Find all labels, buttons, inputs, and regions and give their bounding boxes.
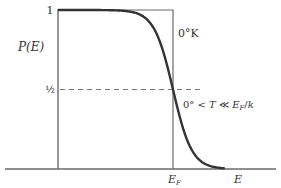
zero-kelvin-label: 0°K xyxy=(178,27,199,40)
y-tick-label-half: ½ xyxy=(45,84,55,95)
label-part-k: k xyxy=(248,99,254,110)
y-axis-label: P(E) xyxy=(17,40,45,54)
x-tick-E: E xyxy=(167,173,176,186)
x-tick-label-fermi-energy: EF xyxy=(167,173,182,187)
label-part-ll: ≪ xyxy=(216,99,232,110)
y-tick-label-one: 1 xyxy=(47,4,54,17)
x-tick-F-sub: F xyxy=(175,179,182,187)
finite-temperature-label: 0° < T ≪ EF/k xyxy=(183,99,254,112)
x-axis-label: E xyxy=(233,173,242,186)
fermi-dirac-chart: 1 ½ P(E) 0°K 0° < T ≪ EF/k EF E xyxy=(0,0,281,188)
label-part-prefix: 0° < xyxy=(183,99,209,110)
